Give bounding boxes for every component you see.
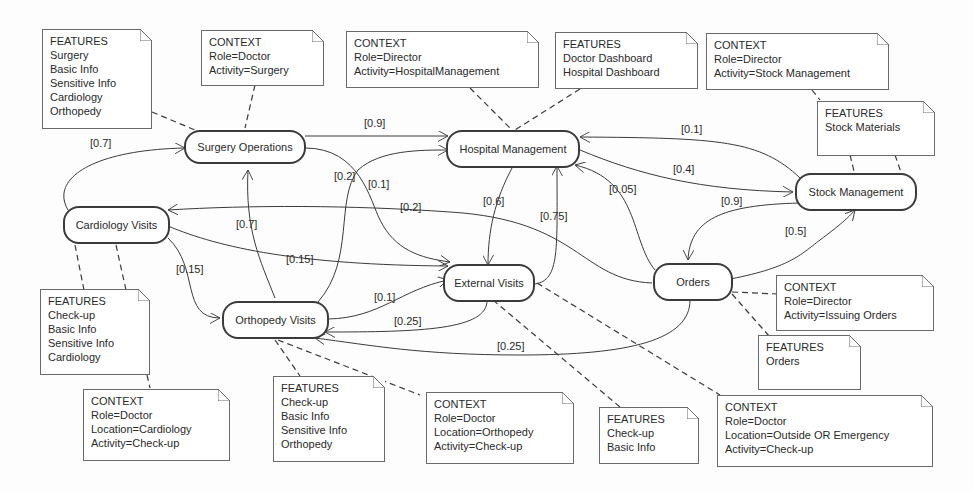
note-heading: FEATURES — [48, 294, 135, 308]
anchor-surgery-context — [245, 85, 255, 128]
note-heading: CONTEXT — [725, 400, 918, 414]
note-line: Location=Cardiology — [91, 422, 215, 436]
state-diagram: Surgery Operations Hospital Management S… — [0, 0, 973, 491]
prob-stock-hospital: [0.1] — [681, 123, 702, 135]
note-line: Activity=Check-up — [725, 442, 918, 456]
note-surgery-features: FEATURESSurgeryBasic InfoSensitive InfoC… — [42, 29, 152, 129]
note-line: Check-up — [607, 426, 684, 440]
note-line: Activity=Surgery — [209, 63, 309, 77]
state-cardiology-visits[interactable]: Cardiology Visits — [63, 206, 170, 244]
note-line: Activity=Issuing Orders — [784, 308, 919, 322]
prob-cardiology-orthopedy: [0.15] — [176, 263, 204, 275]
prob-orders-stock: [0.5] — [785, 225, 806, 237]
note-heading: CONTEXT — [91, 394, 215, 408]
note-heading: CONTEXT — [434, 397, 559, 411]
edge-cardiology-surgery — [64, 148, 185, 210]
state-hospital-management[interactable]: Hospital Management — [446, 130, 580, 168]
note-line: Stock Materials — [825, 120, 920, 134]
note-line: Activity=HospitalManagement — [354, 64, 524, 78]
note-line: Surgery — [50, 48, 137, 62]
note-line: Role=Doctor — [434, 411, 559, 425]
state-label: Orders — [676, 276, 710, 288]
state-orders[interactable]: Orders — [653, 263, 733, 301]
note-surgery-context: CONTEXTRole=DoctorActivity=Surgery — [201, 30, 324, 86]
edge-orthopedy-surgery — [248, 170, 275, 298]
note-line: Cardiology — [50, 90, 137, 104]
state-external-visits[interactable]: External Visits — [443, 264, 535, 302]
prob-cardiology-external: [0.15] — [286, 253, 314, 265]
note-line: Orders — [766, 354, 846, 368]
note-line: Role=Director — [354, 50, 524, 64]
prob-hospital-external: [0.6] — [483, 195, 504, 207]
state-label: Stock Management — [809, 186, 904, 198]
folded-corner-icon — [138, 289, 150, 301]
note-heading: FEATURES — [281, 381, 370, 395]
prob-orthopedy-surgery: [0.7] — [236, 218, 257, 230]
note-line: Role=Doctor — [725, 414, 918, 428]
anchor-surgery-features — [152, 112, 195, 130]
folded-corner-icon — [218, 389, 230, 401]
note-orders-features: FEATURESOrders — [758, 335, 861, 390]
folded-corner-icon — [562, 392, 574, 404]
prob-orders-cardiology: [0.2] — [400, 201, 421, 213]
note-hospital-context: CONTEXTRole=DirectorActivity=HospitalMan… — [346, 31, 539, 88]
prob-orthopedy-external: [0.1] — [374, 291, 395, 303]
state-label: External Visits — [454, 277, 524, 289]
note-line: Role=Director — [714, 52, 874, 66]
note-hospital-features: FEATURESDoctor DashboardHospital Dashboa… — [555, 32, 698, 89]
note-line: Check-up — [281, 395, 370, 409]
note-heading: FEATURES — [563, 37, 683, 51]
note-external-features: FEATURESCheck-upBasic Info — [599, 407, 699, 464]
note-heading: CONTEXT — [209, 35, 309, 49]
folded-corner-icon — [140, 29, 152, 41]
state-surgery-operations[interactable]: Surgery Operations — [184, 130, 306, 164]
state-label: Orthopedy Visits — [235, 314, 316, 326]
edge-external-hospital — [535, 166, 557, 284]
state-label: Cardiology Visits — [76, 219, 158, 231]
note-line: Role=Doctor — [91, 408, 215, 422]
edge-orders-stock — [725, 210, 855, 280]
note-line: Sensitive Info — [281, 423, 370, 437]
prob-orders-hospital: [0.05] — [609, 183, 637, 195]
note-line: Activity=Stock Management — [714, 66, 874, 80]
prob-cardiology-surgery: [0.7] — [90, 137, 111, 149]
note-orders-context: CONTEXTRole=DirectorActivity=Issuing Ord… — [776, 275, 934, 331]
note-orthopedy-features: FEATURESCheck-upBasic InfoSensitive Info… — [273, 376, 385, 462]
prob-hospital-stock: [0.4] — [673, 163, 694, 175]
note-line: Location=Orthopedy — [434, 425, 559, 439]
note-line: Orthopedy — [50, 104, 137, 118]
prob-surgery-hospital: [0.9] — [364, 117, 385, 129]
note-line: Location=Outside OR Emergency — [725, 428, 918, 442]
note-stock-features: FEATURESStock Materials — [817, 101, 935, 156]
note-external-context: CONTEXTRole=DoctorLocation=Outside OR Em… — [717, 395, 933, 467]
note-line: Basic Info — [48, 322, 135, 336]
note-cardiology-features: FEATURESCheck-upBasic InfoSensitive Info… — [40, 289, 150, 375]
note-line: Role=Doctor — [209, 49, 309, 63]
prob-stock-orders: [0.9] — [721, 195, 742, 207]
edge-orders-hospital — [575, 165, 655, 270]
note-line: Check-up — [48, 308, 135, 322]
note-line: Orthopedy — [281, 437, 370, 451]
folded-corner-icon — [922, 275, 934, 287]
note-orthopedy-context: CONTEXTRole=DoctorLocation=OrthopedyActi… — [426, 392, 574, 464]
note-line: Basic Info — [50, 62, 137, 76]
note-heading: FEATURES — [766, 340, 846, 354]
note-line: Hospital Dashboard — [563, 65, 683, 79]
state-label: Hospital Management — [459, 143, 566, 155]
note-heading: FEATURES — [607, 412, 684, 426]
prob-orders-orthopedy: [0.25] — [497, 340, 525, 352]
note-heading: CONTEXT — [714, 38, 874, 52]
note-line: Cardiology — [48, 350, 135, 364]
prob-external-hospital: [0.75] — [540, 210, 568, 222]
state-label: Surgery Operations — [197, 141, 292, 153]
folded-corner-icon — [687, 407, 699, 419]
note-stock-context: CONTEXTRole=DirectorActivity=Stock Manag… — [706, 33, 889, 90]
folded-corner-icon — [877, 33, 889, 45]
folded-corner-icon — [686, 32, 698, 44]
folded-corner-icon — [373, 376, 385, 388]
state-orthopedy-visits[interactable]: Orthopedy Visits — [222, 301, 329, 339]
edge-surgery-external — [305, 148, 450, 262]
state-stock-management[interactable]: Stock Management — [795, 173, 917, 211]
edge-stock-orders — [688, 203, 800, 260]
note-heading: CONTEXT — [784, 280, 919, 294]
